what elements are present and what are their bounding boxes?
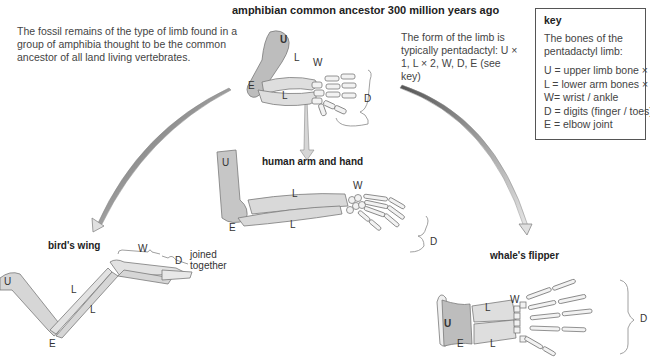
page-title: amphibian common ancestor 300 million ye… xyxy=(232,4,499,16)
ancestor-limb-drawing xyxy=(247,31,371,126)
form-text: The form of the limb is typically pentad… xyxy=(401,31,519,83)
whale-label-u: U xyxy=(444,318,451,329)
key-item: L = lower arm bones × 2 xyxy=(544,78,637,92)
ancestor-label-u: U xyxy=(280,34,287,45)
bird-label-e: E xyxy=(49,338,56,349)
ancestor-label-d: D xyxy=(364,93,371,104)
human-label-d: D xyxy=(430,236,437,247)
human-label-l2: L xyxy=(290,219,296,230)
whale-label-e: E xyxy=(457,338,464,349)
key-item: E = elbow joint xyxy=(544,118,637,132)
bird-label-u: U xyxy=(4,276,11,287)
human-label-u: U xyxy=(222,157,229,168)
human-label-w: W xyxy=(353,180,362,191)
whale-label-w: W xyxy=(510,294,519,305)
bird-note: joined together xyxy=(190,249,240,271)
bird-label-d: D xyxy=(175,255,182,266)
human-label-l1: L xyxy=(292,188,298,199)
ancestor-label-l1: L xyxy=(294,52,300,63)
ancestor-label-e: E xyxy=(248,80,255,91)
ancestor-label-w: W xyxy=(313,57,322,68)
human-label-e: E xyxy=(229,222,236,233)
bird-label-l2: L xyxy=(90,304,96,315)
whale-label-l1: L xyxy=(485,302,491,313)
key-title: key xyxy=(544,14,637,26)
arrow-to-bird-icon xyxy=(92,88,231,232)
key-box: key The bones of the pentadactyl limb: U… xyxy=(535,8,646,140)
bird-title: bird's wing xyxy=(48,240,100,251)
intro-text: The fossil remains of the type of limb f… xyxy=(17,25,247,64)
bird-label-w: W xyxy=(138,243,147,254)
key-item: W= wrist / ankle xyxy=(544,91,637,105)
whale-title: whale's flipper xyxy=(490,250,559,261)
bird-label-l1: L xyxy=(71,284,77,295)
key-item: U = upper limb bone × 1 xyxy=(544,64,637,78)
whale-label-d: D xyxy=(640,313,647,324)
key-intro: The bones of the pentadactyl limb: xyxy=(544,32,637,58)
human-title: human arm and hand xyxy=(262,156,363,167)
bird-wing-drawing xyxy=(0,250,192,338)
key-item: D = digits (finger / toes) xyxy=(544,105,637,119)
ancestor-label-l2: L xyxy=(282,90,288,101)
arrow-to-human-icon xyxy=(300,100,314,160)
whale-label-l2: L xyxy=(490,338,496,349)
whale-flipper-drawing xyxy=(437,279,634,357)
arrow-to-whale-icon xyxy=(400,85,532,235)
